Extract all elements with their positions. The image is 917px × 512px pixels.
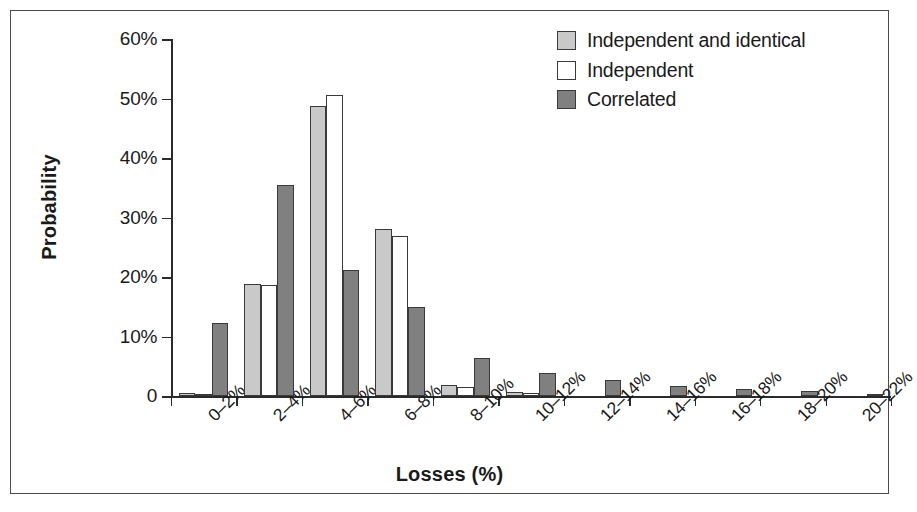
figure-frame: Probability Losses (%) Independent and i… [10, 10, 889, 494]
x-axis-line [171, 396, 891, 398]
bar-group [760, 39, 825, 396]
bar [523, 393, 540, 396]
bar [506, 392, 523, 396]
y-axis-tick-label: 40% [120, 147, 157, 169]
bar [326, 95, 343, 396]
bar [375, 229, 392, 397]
bar-group [367, 39, 432, 396]
bar-group [629, 39, 694, 396]
bar [441, 385, 458, 396]
bar [539, 373, 556, 397]
bar [212, 323, 229, 397]
bar [736, 389, 753, 397]
bar [867, 394, 884, 396]
y-axis-title: Probability [38, 154, 61, 260]
x-axis-tick [171, 398, 172, 406]
bar [277, 185, 294, 396]
y-axis-tick-label: 60% [120, 28, 157, 50]
y-axis-tick-label: 0 [147, 385, 157, 407]
bar [179, 393, 196, 397]
bar-group [695, 39, 760, 396]
bar-group [564, 39, 629, 396]
y-axis-tick [162, 39, 171, 41]
plot-area: 010%20%30%40%50%60% 0–2%2–4%4–6%6–8%8–10… [171, 39, 891, 398]
bar [408, 307, 425, 397]
bar [801, 391, 818, 396]
bar [261, 285, 278, 397]
bar [457, 387, 474, 396]
x-axis-title: Losses (%) [11, 463, 888, 486]
bar [605, 380, 622, 396]
bar-group [498, 39, 563, 396]
bar [195, 394, 212, 396]
bar-group [236, 39, 301, 396]
bar [670, 386, 687, 396]
bar [474, 358, 491, 397]
y-axis-tick [162, 337, 171, 339]
y-axis-tick [162, 277, 171, 279]
y-axis-tick [162, 396, 171, 398]
bar [392, 236, 409, 396]
bar [310, 106, 327, 396]
bar [244, 284, 261, 396]
y-axis-tick [162, 158, 171, 160]
bar-group [433, 39, 498, 396]
y-axis-tick [162, 218, 171, 220]
y-axis-tick-label: 20% [120, 266, 157, 288]
bar-group [302, 39, 367, 396]
bar-group [826, 39, 891, 396]
bar-group [171, 39, 236, 396]
y-axis-tick-label: 50% [120, 88, 157, 110]
bar [343, 270, 360, 397]
y-axis-tick-label: 30% [120, 207, 157, 229]
y-axis-tick [162, 99, 171, 101]
y-axis-tick-label: 10% [120, 326, 157, 348]
